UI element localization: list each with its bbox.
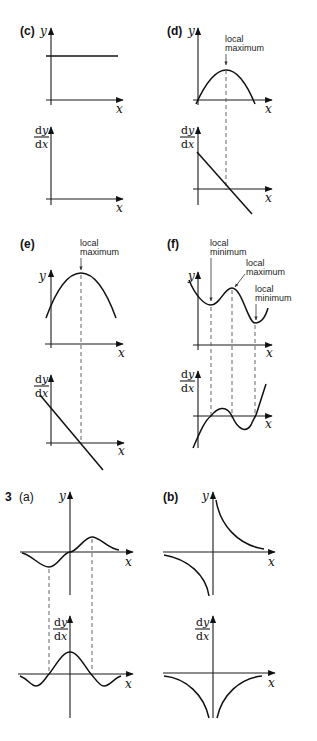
x-axis-label: x bbox=[265, 102, 272, 116]
dx-label: dx bbox=[35, 138, 49, 151]
annotation-arrow bbox=[235, 274, 245, 287]
x-axis-label: x bbox=[266, 346, 273, 360]
parabola-curve bbox=[196, 70, 255, 104]
panel-3b: (b) y x dy dx x bbox=[163, 489, 275, 718]
panel-e-label: (e) bbox=[20, 237, 35, 251]
panel-d: (d) y x local maximum dy dx x bbox=[167, 24, 272, 214]
x-axis-label: x bbox=[125, 555, 132, 569]
dx-label: dx bbox=[54, 630, 68, 643]
panel-c: (c) y x dy dx x bbox=[20, 24, 123, 215]
panel-f-label: (f) bbox=[167, 237, 179, 251]
y-axis-label: y bbox=[39, 24, 47, 38]
x-axis-label: x bbox=[118, 346, 125, 360]
x-axis-label: x bbox=[268, 676, 275, 690]
x-axis-label: x bbox=[265, 191, 272, 205]
annotation-maximum: maximum bbox=[80, 247, 119, 257]
panel-d-label: (d) bbox=[167, 24, 182, 38]
dx-label: dx bbox=[196, 630, 210, 643]
y-axis-label: y bbox=[58, 489, 66, 503]
y-axis-label: y bbox=[187, 24, 195, 38]
x-axis-label: x bbox=[265, 417, 272, 431]
dy-label: dy bbox=[35, 373, 49, 386]
x-axis-label: x bbox=[116, 102, 123, 116]
panel-3b-label: (b) bbox=[163, 490, 178, 504]
x-axis-label: x bbox=[118, 444, 125, 458]
derivative-left-branch bbox=[164, 676, 209, 718]
annotation-maximum: maximum bbox=[225, 43, 264, 53]
dy-label: dy bbox=[35, 124, 49, 137]
derivative-diagram: (c) y x dy dx x (d) y x local maximum dy… bbox=[0, 0, 317, 741]
panel-3a: 3 (a) y x dy dx x bbox=[5, 489, 133, 718]
dy-label: dy bbox=[196, 616, 210, 629]
derivative-right-branch bbox=[217, 676, 262, 718]
panel-3a-label: (a) bbox=[19, 490, 34, 504]
annotation-minimum: minimum bbox=[210, 247, 247, 257]
panel-f: (f) local minimum local maximum local mi… bbox=[167, 237, 292, 448]
hyperbola-upper-branch bbox=[216, 500, 264, 549]
x-axis-label: x bbox=[116, 201, 123, 215]
dy-label: dy bbox=[54, 616, 68, 629]
dx-label: dx bbox=[181, 382, 195, 395]
x-axis-label: x bbox=[125, 677, 132, 691]
annotation-maximum: maximum bbox=[246, 267, 285, 277]
dy-label: dy bbox=[181, 368, 195, 381]
y-axis-label: y bbox=[201, 489, 209, 503]
dx-label: dx bbox=[181, 138, 195, 151]
derivative-line bbox=[197, 152, 252, 214]
annotation-minimum: minimum bbox=[255, 293, 292, 303]
x-axis-label: x bbox=[268, 555, 275, 569]
y-axis-label: y bbox=[187, 269, 195, 283]
panel-e: (e) local maximum y x dy dx x bbox=[20, 237, 125, 470]
hyperbola-lower-branch bbox=[164, 555, 209, 596]
panel-c-label: (c) bbox=[20, 24, 35, 38]
derivative-line bbox=[40, 395, 103, 470]
y-axis-label: y bbox=[38, 269, 46, 283]
dy-label: dy bbox=[181, 124, 195, 137]
question-number: 3 bbox=[5, 490, 12, 504]
